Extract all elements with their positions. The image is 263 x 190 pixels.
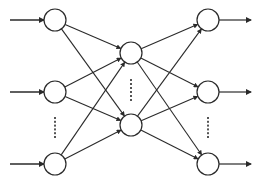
input-neuron-node bbox=[44, 9, 66, 31]
output-neuron-node bbox=[197, 9, 219, 31]
input-neuron-node bbox=[44, 81, 66, 103]
input-ellipsis-dot bbox=[54, 132, 56, 134]
input-ellipsis-dot bbox=[54, 117, 56, 119]
input-ellipsis-dot bbox=[54, 121, 56, 123]
output-neuron-node bbox=[197, 153, 219, 175]
connection-edge bbox=[65, 58, 121, 87]
output-neuron-node bbox=[197, 81, 219, 103]
hidden-ellipsis-dot bbox=[130, 87, 132, 89]
output-ellipsis-dot bbox=[207, 117, 209, 119]
output-ellipsis-dot bbox=[207, 121, 209, 123]
connection-edge bbox=[61, 62, 125, 155]
network-svg bbox=[0, 0, 263, 190]
output-ellipsis-dot bbox=[207, 136, 209, 138]
input-neuron-node bbox=[44, 153, 66, 175]
hidden-ellipsis-dot bbox=[130, 91, 132, 93]
input-ellipsis-dot bbox=[54, 136, 56, 138]
hidden-ellipsis-dot bbox=[130, 99, 132, 101]
hidden-ellipsis-dot bbox=[130, 79, 132, 81]
connection-edge bbox=[65, 130, 121, 159]
output-ellipsis-dot bbox=[207, 128, 209, 130]
connection-edge bbox=[141, 130, 198, 159]
output-ellipsis-dot bbox=[207, 132, 209, 134]
input-ellipsis-dot bbox=[54, 125, 56, 127]
input-ellipsis-dot bbox=[54, 128, 56, 130]
connection-edge bbox=[138, 29, 202, 116]
hidden-ellipsis-dot bbox=[130, 95, 132, 97]
output-ellipsis-dot bbox=[207, 125, 209, 127]
neural-network-diagram bbox=[0, 0, 263, 190]
hidden-neuron-node bbox=[120, 114, 142, 136]
hidden-neuron-node bbox=[120, 42, 142, 64]
hidden-ellipsis-dot bbox=[130, 83, 132, 85]
